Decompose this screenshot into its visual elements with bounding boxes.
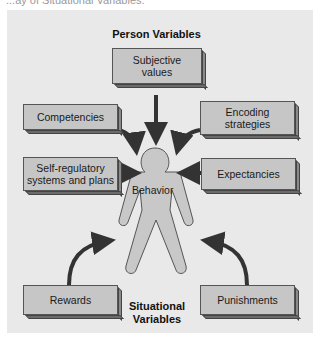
situational-variables-heading: SituationalVariables [122,300,192,326]
box-punishments: Punishments [200,285,295,315]
arrow-punishments [208,241,247,285]
box-encoding-strategies: Encodingstrategies [200,101,295,135]
box-subjective-values: Subjectivevalues [112,48,202,84]
arrow-rewards [69,241,108,285]
behavior-label: Behavior [132,184,173,196]
box-competencies: Competencies [23,104,118,130]
box-rewards: Rewards [23,285,118,315]
box-expectancies: Expectancies [201,158,296,190]
arrow-encoding-strategies [178,130,200,148]
person-figure-icon [119,148,193,273]
box-self-regulatory: Self-regulatorysystems and plans [23,157,118,191]
